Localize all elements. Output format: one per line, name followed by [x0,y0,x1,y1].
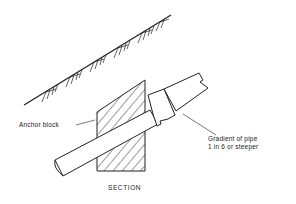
ground-slope [24,15,171,105]
section-title: SECTION [108,184,141,191]
gradient-label: Gradient of pipe 1 in 6 or steeper [208,135,258,151]
gradient-label-line2: 1 in 6 or steeper [208,143,258,151]
anchor-block-label: Anchor block [19,121,59,128]
section-diagram [0,0,296,204]
gradient-label-line1: Gradient of pipe [208,135,258,143]
